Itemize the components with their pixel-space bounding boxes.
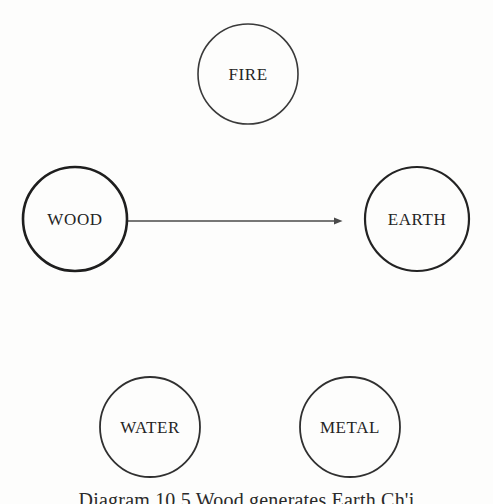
figure-caption: Diagram 10.5 Wood generates Earth Ch'i [0,489,493,504]
node-label-earth: EARTH [388,211,447,228]
node-earth: EARTH [365,167,469,271]
node-label-wood: WOOD [47,211,102,228]
figure-page: FIRE WOOD EARTH WATER METAL Diagram 10.5… [0,0,493,504]
figure-caption-text: Diagram 10.5 Wood generates Earth Ch'i [79,489,415,504]
node-wood: WOOD [23,167,127,271]
node-metal: METAL [300,377,400,477]
node-water: WATER [100,377,200,477]
node-label-metal: METAL [320,419,380,436]
node-label-fire: FIRE [228,66,267,83]
node-fire: FIRE [198,24,298,124]
node-label-water: WATER [120,419,180,436]
